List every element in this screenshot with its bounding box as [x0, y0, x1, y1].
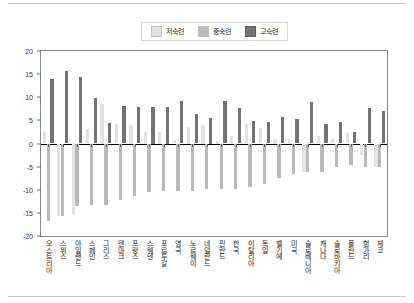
x-tick-mark [236, 144, 237, 147]
x-axis-tick-label: 노르웨이 [189, 240, 196, 267]
bar-slot [346, 51, 349, 236]
x-tick-mark [106, 144, 107, 147]
y-tick-mark [37, 143, 41, 144]
legend-item-1: 저숙련 [151, 26, 184, 37]
bar-slot [382, 51, 385, 236]
bar-고숙련 [180, 101, 183, 143]
legend-item-3: 고숙련 [245, 26, 278, 37]
bar-slot [259, 51, 262, 236]
bar-slot [223, 51, 226, 236]
x-axis-tick-label: 영국 [174, 240, 181, 253]
bar-slot [187, 51, 190, 236]
bar-slot [86, 51, 89, 236]
bar-중숙련 [248, 144, 251, 187]
bar-고숙련 [267, 122, 270, 144]
bar-중숙련 [220, 144, 223, 190]
x-tick-mark [164, 144, 165, 147]
x-axis-tick-label: 슬로베니아 [304, 240, 311, 274]
x-tick-mark [48, 144, 49, 147]
bar-slot [324, 51, 327, 236]
bar-slot [108, 51, 111, 236]
x-tick-mark [322, 144, 323, 147]
legend-label: 저숙련 [166, 28, 184, 35]
x-tick-mark [380, 144, 381, 147]
bar-고숙련 [50, 79, 53, 143]
bar-중숙련 [61, 144, 64, 217]
y-axis-tick-label: 0 [0, 140, 33, 147]
bar-slot [137, 51, 140, 236]
bar-저숙련 [216, 141, 219, 143]
chart-legend: 저숙련중숙련고숙련 [141, 22, 288, 41]
bar-중숙련 [277, 144, 280, 178]
x-axis-tick-label: 체코 [376, 240, 383, 253]
bar-slot [267, 51, 270, 236]
bar-slot [302, 51, 305, 236]
bar-slot [331, 51, 334, 236]
bar-slot [281, 51, 284, 236]
bar-중숙련 [306, 144, 309, 173]
bar-고숙련 [281, 117, 284, 144]
y-tick-mark [37, 74, 41, 75]
bar-중숙련 [176, 144, 179, 191]
bar-slot [201, 51, 204, 236]
x-tick-mark [63, 144, 64, 147]
x-axis-tick-label: 스위스 [59, 240, 66, 260]
y-axis-tick-label: 10 [0, 94, 33, 101]
bar-slot [72, 51, 75, 236]
bar-저숙련 [230, 136, 233, 144]
bar-slot [209, 51, 212, 236]
x-tick-mark [207, 144, 208, 147]
bar-고숙련 [310, 102, 313, 143]
bar-slot [65, 51, 68, 236]
y-tick-mark [37, 212, 41, 213]
bar-저숙련 [302, 144, 305, 173]
x-axis-tick-label: 폴란드 [347, 240, 354, 260]
bar-저숙련 [115, 124, 118, 144]
bar-slot [100, 51, 103, 236]
bar-고숙련 [382, 111, 385, 144]
bar-저숙련 [43, 131, 46, 143]
bar-고숙련 [151, 107, 154, 144]
legend-item-2: 중숙련 [198, 26, 231, 37]
bar-slot [122, 51, 125, 236]
bar-slot [317, 51, 320, 236]
bottom-divider [8, 296, 406, 297]
x-tick-mark [365, 144, 366, 147]
bar-저숙련 [72, 144, 75, 214]
legend-label: 중숙련 [213, 28, 231, 35]
x-tick-mark [308, 144, 309, 147]
bar-slot [129, 51, 132, 236]
bar-저숙련 [288, 139, 291, 144]
bar-저숙련 [331, 139, 334, 143]
bar-slot [166, 51, 169, 236]
x-axis-tick-label: 독일 [261, 240, 268, 253]
x-tick-mark [135, 144, 136, 147]
x-axis-tick-label: 스페인 [88, 240, 95, 260]
bar-저숙련 [173, 140, 176, 143]
x-tick-mark [149, 144, 150, 147]
bar-slot [79, 51, 82, 236]
x-axis-tick-label: 그리스 [102, 240, 109, 260]
bar-slot [57, 51, 60, 236]
bar-slot [245, 51, 248, 236]
x-tick-mark [91, 144, 92, 147]
bar-고숙련 [108, 123, 111, 143]
bar-저숙련 [360, 144, 363, 156]
y-tick-mark [37, 97, 41, 98]
x-tick-mark [120, 144, 121, 147]
y-axis-tick-label: 20 [0, 48, 33, 55]
bar-중숙련 [205, 144, 208, 189]
bar-고숙련 [252, 121, 255, 143]
y-axis-tick-label: -10 [0, 186, 33, 193]
bar-slot [151, 51, 154, 236]
bar-고숙련 [166, 107, 169, 144]
chart-page: 저숙련중숙련고숙련 20151050-5-10-15-20오스트리아스위스아일랜… [0, 0, 414, 303]
x-tick-mark [351, 144, 352, 147]
x-axis-tick-label: 덴마크 [117, 240, 124, 260]
bar-slot [158, 51, 161, 236]
x-axis-tick-label: 캐나다 [319, 240, 326, 260]
top-divider [8, 3, 406, 4]
bar-중숙련 [234, 144, 237, 190]
bar-저숙련 [86, 129, 89, 144]
y-tick-mark [37, 236, 41, 237]
